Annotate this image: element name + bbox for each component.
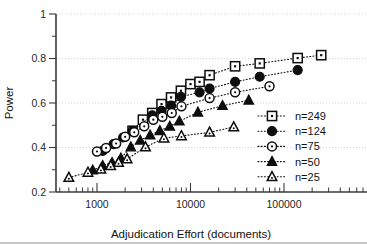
data-marker-open-circle xyxy=(93,147,102,156)
y-tick-label: 0.8 xyxy=(31,52,46,64)
data-marker-open-square xyxy=(317,51,326,60)
legend-label: n=50 xyxy=(295,156,320,168)
x-axis-title: Adjudication Effort (documents) xyxy=(111,228,271,240)
data-marker-filled-circle xyxy=(205,84,214,93)
data-marker-filled-circle xyxy=(195,88,204,97)
x-tick-label: 1000 xyxy=(85,198,109,210)
data-marker-open-square xyxy=(255,59,264,68)
y-axis-title: Power xyxy=(3,87,15,120)
data-marker-filled-circle xyxy=(255,72,264,81)
legend-label: n=75 xyxy=(295,140,320,152)
data-marker-open-square xyxy=(231,62,240,71)
data-marker-filled-circle xyxy=(268,127,277,136)
x-tick-label: 100000 xyxy=(266,198,301,210)
data-marker-open-square xyxy=(293,53,302,62)
legend-label: n=249 xyxy=(295,110,326,122)
legend-label: n=124 xyxy=(295,125,326,137)
data-marker-open-square xyxy=(205,71,214,80)
data-marker-open-circle xyxy=(167,109,176,118)
data-marker-filled-circle xyxy=(231,77,240,86)
data-marker-filled-circle xyxy=(293,66,302,75)
data-marker-open-circle xyxy=(130,128,139,137)
data-marker-filled-circle xyxy=(176,92,185,101)
legend-label: n=25 xyxy=(295,171,320,183)
data-marker-open-circle xyxy=(102,143,111,152)
power-vs-effort-chart: 100010000100000 0.20.40.60.81 Adjudicati… xyxy=(0,0,367,244)
data-marker-open-circle xyxy=(205,94,214,103)
data-marker-open-circle xyxy=(140,122,149,131)
data-marker-open-circle xyxy=(231,88,240,97)
data-marker-open-circle xyxy=(158,112,167,121)
data-marker-open-square xyxy=(195,77,204,86)
data-marker-open-circle xyxy=(268,142,277,151)
data-marker-open-circle xyxy=(177,102,186,111)
data-marker-open-circle xyxy=(265,82,274,91)
y-tick-label: 1 xyxy=(40,8,46,20)
y-tick-label: 0.4 xyxy=(31,141,46,153)
y-tick-label: 0.2 xyxy=(31,186,46,198)
data-marker-open-circle xyxy=(121,132,130,141)
data-marker-open-circle xyxy=(112,139,121,148)
y-tick-label: 0.6 xyxy=(31,97,46,109)
data-marker-open-circle xyxy=(149,115,158,124)
x-tick-label: 10000 xyxy=(176,198,205,210)
data-marker-open-square xyxy=(186,79,195,88)
data-marker-open-square xyxy=(267,111,276,120)
